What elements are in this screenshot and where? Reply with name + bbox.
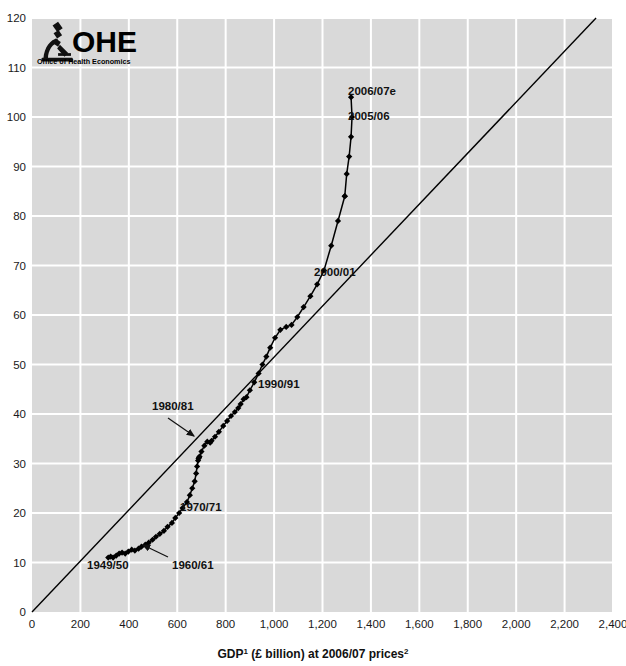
- y-tick-label: 60: [13, 309, 26, 321]
- y-tick-label: 20: [13, 507, 26, 519]
- x-tick-label: 400: [119, 618, 138, 630]
- annotation-label: 1980/81: [152, 400, 194, 412]
- x-tick-label: 200: [71, 618, 90, 630]
- annotation-label: 1970/71: [180, 501, 222, 513]
- y-tick-label: 90: [13, 161, 26, 173]
- x-tick-label: 1,600: [405, 618, 434, 630]
- annotation-label: 2000/01: [314, 266, 356, 278]
- annotation-label: 1960/61: [172, 559, 214, 571]
- y-tick-label: 80: [13, 210, 26, 222]
- x-tick-label: 600: [168, 618, 187, 630]
- x-axis-title: GDP1 (£ billion) at 2006/07 prices2: [218, 647, 410, 661]
- y-tick-label: 110: [8, 62, 26, 74]
- annotation-label: 1949/50: [87, 559, 129, 571]
- x-tick-label: 800: [216, 618, 235, 630]
- x-axis-tick-labels: 02004006008001,0001,2001,4001,6001,8002,…: [29, 618, 626, 630]
- y-tick-label: 100: [7, 111, 26, 123]
- y-tick-label: 50: [13, 359, 26, 371]
- x-axis-title-middle: (£ billion) at 2006/07 prices: [248, 647, 404, 661]
- y-tick-label: 0: [20, 606, 26, 618]
- ohe-logo-subtitle: Office of Health Economics: [37, 57, 130, 66]
- x-tick-label: 0: [29, 618, 35, 630]
- x-tick-label: 1,400: [357, 618, 386, 630]
- y-tick-label: 40: [13, 408, 26, 420]
- x-tick-label: 1,200: [308, 618, 337, 630]
- y-tick-label: 70: [13, 260, 26, 272]
- x-tick-label: 2,000: [502, 618, 531, 630]
- x-tick-label: 2,400: [599, 618, 626, 630]
- x-axis-title-superscript-2: 2: [404, 647, 409, 656]
- x-tick-label: 1,000: [260, 618, 289, 630]
- ohe-logo-acronym: OHE: [72, 25, 137, 58]
- annotation-label: 2006/07e: [348, 85, 396, 97]
- chart-figure: 02004006008001,0001,2001,4001,6001,8002,…: [0, 0, 626, 666]
- y-tick-label: 10: [13, 557, 26, 569]
- y-tick-label: 120: [7, 12, 26, 24]
- x-tick-label: 1,800: [453, 618, 482, 630]
- x-tick-label: 2,200: [550, 618, 579, 630]
- x-axis-title-main: GDP: [218, 647, 244, 661]
- y-tick-label: 30: [13, 458, 26, 470]
- y-axis-tick-labels: 0102030405060708090100110120: [7, 12, 26, 618]
- chart-canvas: 02004006008001,0001,2001,4001,6001,8002,…: [0, 0, 626, 666]
- annotation-label: 2005/06: [348, 110, 390, 122]
- annotation-label: 1990/91: [258, 378, 300, 390]
